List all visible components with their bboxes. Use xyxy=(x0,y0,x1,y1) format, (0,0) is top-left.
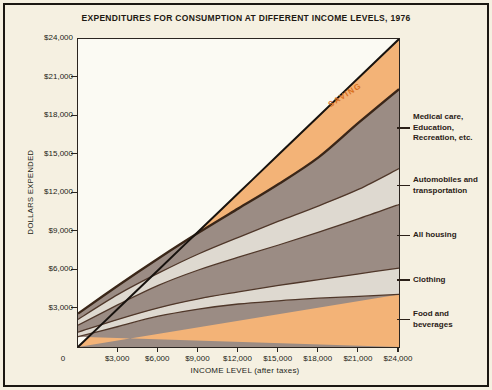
x-tick-label: $24,000 xyxy=(373,354,423,363)
y-tick-label: $24,000 xyxy=(13,33,73,42)
category-label: Clothing xyxy=(413,275,491,286)
category-label-line: transportation xyxy=(413,186,491,197)
y-tick-label: $18,000 xyxy=(13,110,73,119)
category-label: All housing xyxy=(413,230,491,241)
x-tick xyxy=(157,347,158,352)
category-label-line: Medical care, xyxy=(413,112,491,123)
y-tick-label: $12,000 xyxy=(13,187,73,196)
category-label-line: Recreation, etc. xyxy=(413,133,491,144)
x-tick-label: 0 xyxy=(38,354,88,363)
plot-area: SAVING xyxy=(77,38,400,348)
category-label-line: beverages xyxy=(413,320,491,331)
figure-frame: EXPENDITURES FOR CONSUMPTION AT DIFFEREN… xyxy=(0,0,492,390)
category-label: Food andbeverages xyxy=(413,309,491,330)
category-label-line: All housing xyxy=(413,230,491,241)
category-label-line: Clothing xyxy=(413,275,491,286)
x-tick xyxy=(117,347,118,352)
y-tick-label: $21,000 xyxy=(13,72,73,81)
category-label-line: Food and xyxy=(413,309,491,320)
category-tick xyxy=(397,319,410,321)
category-tick xyxy=(397,235,410,237)
x-tick xyxy=(397,347,398,352)
category-label: Automobiles andtransportation xyxy=(413,175,491,196)
x-tick xyxy=(277,347,278,352)
x-tick xyxy=(357,347,358,352)
x-tick xyxy=(317,347,318,352)
category-tick xyxy=(397,279,410,281)
x-tick xyxy=(237,347,238,352)
x-tick xyxy=(197,347,198,352)
y-tick-label: $15,000 xyxy=(13,149,73,158)
x-axis-title: INCOME LEVEL (after taxes) xyxy=(145,366,345,375)
y-tick-label: $9,000 xyxy=(13,226,73,235)
chart-title: EXPENDITURES FOR CONSUMPTION AT DIFFEREN… xyxy=(0,13,492,23)
category-label-line: Education, xyxy=(413,123,491,134)
category-label: Medical care,Education,Recreation, etc. xyxy=(413,112,491,144)
y-tick-label: $3,000 xyxy=(13,303,73,312)
category-label-line: Automobiles and xyxy=(413,175,491,186)
y-tick-label: $6,000 xyxy=(13,264,73,273)
category-tick xyxy=(397,127,410,129)
category-tick xyxy=(397,185,410,187)
